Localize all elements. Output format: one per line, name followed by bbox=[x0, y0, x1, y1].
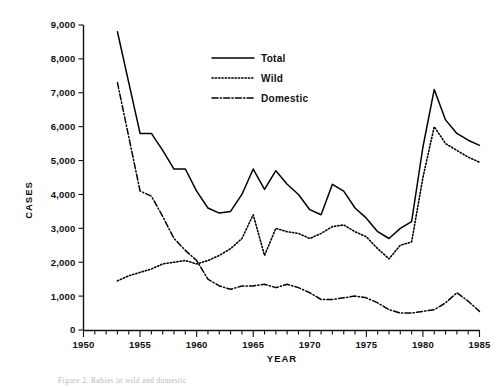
y-axis-group: 01,0002,0003,0004,0005,0006,0007,0008,00… bbox=[23, 19, 84, 335]
rabies-cases-line-chart: 01,0002,0003,0004,0005,0006,0007,0008,00… bbox=[0, 0, 497, 387]
x-tick-label: 1950 bbox=[73, 339, 95, 350]
y-tick-label: 6,000 bbox=[51, 121, 76, 132]
y-tick-label: 7,000 bbox=[51, 87, 76, 98]
legend-label-total: Total bbox=[261, 53, 286, 64]
series-line-wild bbox=[117, 127, 479, 281]
y-tick-label: 0 bbox=[70, 324, 75, 335]
series-line-domestic bbox=[117, 83, 479, 313]
y-tick-label: 4,000 bbox=[51, 189, 76, 200]
y-tick-label: 9,000 bbox=[51, 19, 76, 30]
x-tick-label: 1980 bbox=[412, 339, 434, 350]
data-series-group bbox=[117, 32, 479, 313]
legend-label-wild: Wild bbox=[261, 73, 283, 84]
x-tick-label: 1970 bbox=[299, 339, 321, 350]
x-tick-label: 1955 bbox=[129, 339, 151, 350]
chart-legend: TotalWildDomestic bbox=[212, 53, 309, 104]
x-tick-label: 1985 bbox=[469, 339, 491, 350]
y-tick-label: 5,000 bbox=[51, 155, 76, 166]
x-axis-group: 19501955196019651970197519801985 YEAR bbox=[73, 330, 491, 364]
x-tick-label: 1960 bbox=[186, 339, 208, 350]
y-tick-label: 2,000 bbox=[51, 257, 76, 268]
y-axis-tick-labels: 01,0002,0003,0004,0005,0006,0007,0008,00… bbox=[51, 19, 76, 335]
y-tick-label: 3,000 bbox=[51, 223, 76, 234]
x-axis-tick-labels: 19501955196019651970197519801985 bbox=[73, 339, 491, 350]
legend-label-domestic: Domestic bbox=[261, 93, 309, 104]
x-axis-title: YEAR bbox=[267, 353, 297, 364]
y-axis-ticks bbox=[79, 25, 84, 330]
x-tick-label: 1975 bbox=[355, 339, 377, 350]
y-tick-label: 1,000 bbox=[51, 291, 76, 302]
figure-container: 01,0002,0003,0004,0005,0006,0007,0008,00… bbox=[0, 0, 497, 387]
y-axis-title: CASES bbox=[23, 181, 34, 219]
x-tick-label: 1965 bbox=[242, 339, 264, 350]
series-line-total bbox=[117, 32, 479, 239]
y-tick-label: 8,000 bbox=[51, 53, 76, 64]
figure-caption: Figure 2. Rabies in wild and domestic bbox=[58, 376, 187, 385]
